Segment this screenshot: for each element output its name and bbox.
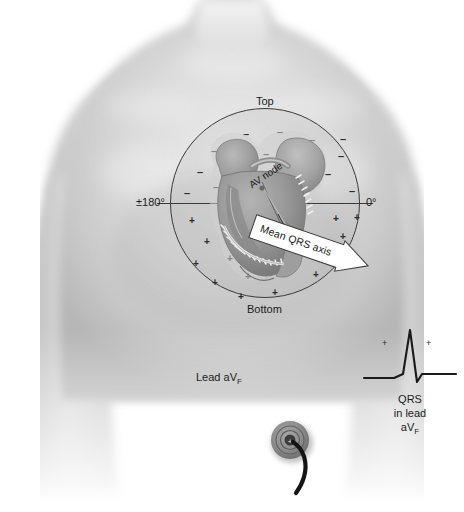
positive-mark: + [245,272,251,281]
ecg-caption-line2: in lead [360,406,460,420]
horizontal-axis-line [157,203,373,204]
negative-mark: – [296,153,302,162]
positive-mark: + [212,278,218,287]
skin-electrode: + [262,413,352,499]
ecg-caption-line3: aVF [360,420,460,439]
ecg-polarity-mark-left: + [382,338,387,348]
lead-avf-label: Lead aVF [196,371,242,386]
ecg-polarity-mark-right: + [426,338,431,348]
negative-mark: – [338,152,344,161]
negative-mark: – [309,136,315,145]
negative-mark: – [325,170,331,179]
label-180-degrees: ±180° [136,196,165,208]
positive-mark: + [281,270,287,279]
positive-mark: + [204,237,210,246]
ecg-waveform-panel: + + QRS in lead aVF [360,324,460,446]
qrs-trace [360,324,460,394]
negative-mark: – [230,157,236,166]
positive-mark: + [313,270,319,279]
positive-mark: + [227,254,233,263]
negative-mark: – [211,147,217,156]
positive-mark: + [221,212,227,221]
negative-mark: – [243,130,249,139]
lead-avf-subscript: F [237,377,242,386]
negative-mark: – [184,189,190,198]
positive-mark: + [193,259,199,268]
positive-mark: + [333,214,339,223]
label-top: Top [256,95,274,107]
positive-mark: + [272,288,278,297]
ecg-caption: QRS in lead aVF [360,392,460,439]
negative-mark: – [213,183,219,192]
figure-root: –––––––––––––– ++++++++++++++++++ [0,0,464,512]
positive-mark: + [354,213,360,222]
positive-mark: + [238,230,244,239]
negative-mark: – [349,187,355,196]
positive-mark: + [238,292,244,301]
label-bottom: Bottom [247,303,282,315]
label-0-degrees: 0° [366,196,377,208]
lead-avf-name: Lead aV [196,371,237,383]
negative-mark: – [277,128,283,137]
negative-mark: – [197,168,203,177]
negative-mark: – [340,135,346,144]
ecg-caption-line1: QRS [360,392,460,406]
negative-mark: – [263,150,269,159]
positive-mark: + [189,216,195,225]
